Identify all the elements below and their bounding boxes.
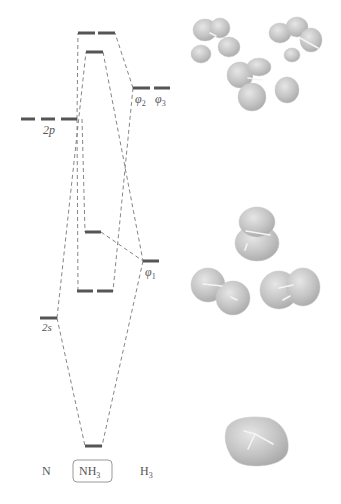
h3-phi2-phi3-levels xyxy=(133,87,170,90)
nh3-nonbonding-a1-level xyxy=(85,231,101,234)
orbital-image-bonding-e-1 xyxy=(191,268,250,315)
n-2p-levels xyxy=(21,118,77,121)
orbital-image-bonding-e-2 xyxy=(260,268,320,309)
orbital-image-antibonding-3 xyxy=(227,58,299,111)
label-2p: 2p xyxy=(43,123,55,137)
h3-phi1-level xyxy=(143,260,159,263)
nh3-bonding-e-levels xyxy=(77,290,113,293)
n-2s-level xyxy=(40,317,57,320)
nh3-antibonding-e-levels xyxy=(78,32,115,35)
nh3-antibonding-a1-level xyxy=(86,51,103,54)
column-label-n: N xyxy=(42,464,51,478)
label-phi3: φ3 xyxy=(155,92,166,108)
orbital-image-bonding-a1 xyxy=(225,417,288,466)
column-label-h3: H3 xyxy=(140,464,153,480)
label-2s: 2s xyxy=(42,321,52,333)
label-phi1: φ1 xyxy=(145,265,156,281)
orbital-image-antibonding-1 xyxy=(191,18,240,63)
orbital-image-lone-pair xyxy=(235,207,279,261)
orbital-image-antibonding-2 xyxy=(269,17,322,62)
mo-diagram: 2p 2s φ2 φ3 φ1 N NH3 H3 xyxy=(0,0,341,504)
label-phi2: φ2 xyxy=(135,92,146,108)
correlation-lines xyxy=(57,33,143,446)
nh3-bonding-a1-level xyxy=(85,445,102,448)
